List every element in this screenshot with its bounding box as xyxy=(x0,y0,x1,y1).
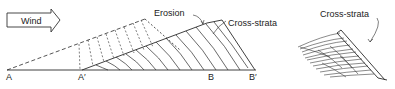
cross-strata-label-right: Cross-strata xyxy=(320,9,369,19)
point-a-label: A xyxy=(6,72,12,82)
cross-strata-label-left: Cross-strata xyxy=(228,18,277,28)
point-b-label: B xyxy=(208,72,214,82)
point-b-prime-label: B′ xyxy=(249,72,257,82)
cross-strata-detail-figure xyxy=(298,18,387,80)
wind-label: Wind xyxy=(21,16,42,26)
point-a-prime-label: A′ xyxy=(78,72,86,82)
cross-strata-diagram: Wind xyxy=(0,0,395,89)
erosion-label: Erosion xyxy=(154,8,185,18)
